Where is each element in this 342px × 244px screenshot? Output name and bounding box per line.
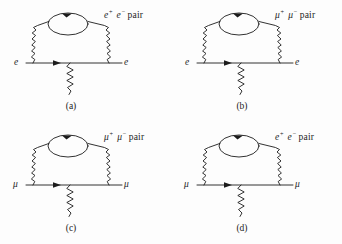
loop-charge-right-a: − bbox=[121, 8, 126, 15]
panel-caption-d: (d) bbox=[227, 223, 257, 233]
loop-arrow-d bbox=[233, 135, 243, 139]
loop-pair-label-a: e+ e−pair bbox=[104, 8, 143, 20]
outgoing-leg-label-a: e bbox=[124, 57, 128, 67]
photon-bottom-d bbox=[238, 185, 244, 217]
loop-pair-label-d: e+ e−pair bbox=[275, 130, 314, 142]
panel-caption-b: (b) bbox=[227, 101, 257, 111]
incoming-leg-label-c: μ bbox=[13, 179, 18, 189]
loop-pair-label-c: μ+ μ−pair bbox=[104, 130, 144, 142]
photon-left-a bbox=[31, 22, 48, 64]
loop-charge-left-b: + bbox=[280, 8, 285, 15]
photon-right-c bbox=[88, 144, 111, 186]
loop-charge-left-d: + bbox=[279, 130, 284, 137]
photon-left-b bbox=[202, 22, 219, 64]
loop-pair-label-b: μ+ μ−pair bbox=[275, 8, 315, 20]
outgoing-leg-label-c: μ bbox=[124, 179, 129, 189]
loop-charge-left-a: + bbox=[108, 8, 113, 15]
loop-charge-right-d: − bbox=[292, 130, 297, 137]
loop-arrow-b bbox=[233, 13, 243, 17]
photon-right-a bbox=[88, 22, 111, 64]
diagram-panel-a: e e e+ e−pair (a) bbox=[0, 0, 171, 122]
panel-caption-a: (a) bbox=[56, 101, 86, 111]
outgoing-leg-label-d: μ bbox=[295, 179, 300, 189]
photon-bottom-c bbox=[67, 185, 73, 217]
incoming-leg-label-a: e bbox=[14, 57, 18, 67]
photon-right-b bbox=[259, 22, 282, 64]
loop-arrow-a bbox=[62, 13, 72, 17]
loop-charge-right-c: − bbox=[122, 130, 127, 137]
fermion-arrow-c bbox=[53, 182, 61, 188]
diagram-panel-b: e e μ+ μ−pair (b) bbox=[171, 0, 342, 122]
loop-pair-word-a: pair bbox=[128, 10, 144, 20]
loop-pair-word-c: pair bbox=[129, 132, 145, 142]
figure-root: e e e+ e−pair (a) e e μ+ μ−pair (b) bbox=[0, 0, 342, 244]
diagram-panel-d: μ μ e+ e−pair (d) bbox=[171, 122, 342, 244]
photon-right-d bbox=[259, 144, 282, 186]
loop-arrow-c bbox=[62, 135, 72, 139]
diagram-panel-c: μ μ μ+ μ−pair (c) bbox=[0, 122, 171, 244]
incoming-leg-label-d: μ bbox=[184, 179, 189, 189]
outgoing-leg-label-b: e bbox=[295, 57, 299, 67]
loop-pair-word-b: pair bbox=[300, 10, 316, 20]
fermion-arrow-b bbox=[224, 60, 232, 66]
loop-charge-right-b: − bbox=[293, 8, 298, 15]
photon-left-c bbox=[31, 144, 48, 186]
photon-bottom-a bbox=[67, 63, 73, 95]
incoming-leg-label-b: e bbox=[185, 57, 189, 67]
loop-pair-word-d: pair bbox=[299, 132, 315, 142]
loop-charge-left-c: + bbox=[109, 130, 114, 137]
photon-left-d bbox=[202, 144, 219, 186]
fermion-arrow-a bbox=[53, 60, 61, 66]
photon-bottom-b bbox=[238, 63, 244, 95]
panel-caption-c: (c) bbox=[56, 223, 86, 233]
fermion-arrow-d bbox=[224, 182, 232, 188]
